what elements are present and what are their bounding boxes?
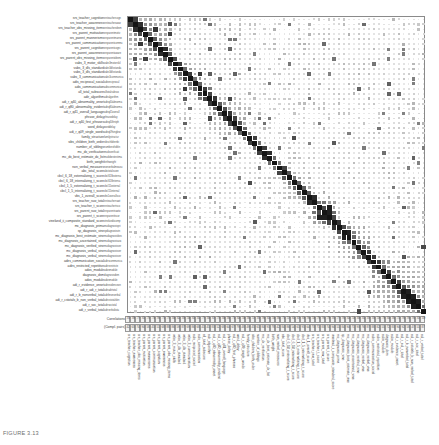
matrix-cell: [403, 241, 405, 243]
matrix-cell: [204, 236, 206, 238]
matrix-cell: [249, 187, 251, 189]
matrix-cell: [328, 132, 330, 134]
matrix-cell: [403, 221, 405, 223]
matrix-cell: [144, 37, 148, 41]
matrix-cell: [259, 172, 261, 174]
matrix-cell: [358, 291, 360, 293]
matrix-cell: [264, 53, 266, 55]
matrix-cell: [254, 23, 256, 25]
matrix-cell: [259, 137, 261, 139]
matrix-cell: [130, 311, 132, 313]
matrix-cell: [244, 251, 246, 253]
matrix-cell: [278, 146, 282, 150]
matrix-cell: [264, 241, 266, 243]
matrix-cell: [348, 221, 351, 224]
matrix-cell: [248, 107, 250, 109]
matrix-cell: [343, 177, 345, 179]
matrix-cell: [164, 261, 166, 263]
matrix-cell: [293, 256, 295, 258]
matrix-cell: [219, 306, 221, 308]
matrix-cell: [413, 122, 415, 124]
matrix-cell: [274, 152, 276, 154]
matrix-cell: [328, 310, 330, 312]
matrix-cell: [343, 286, 345, 288]
matrix-cell: [363, 197, 365, 199]
matrix-cell: [239, 211, 241, 213]
matrix-cell: [318, 38, 320, 40]
matrix-cell: [328, 291, 330, 293]
matrix-cell: [174, 286, 176, 288]
matrix-cell: [403, 172, 405, 174]
matrix-cell: [164, 172, 166, 174]
legend-cell-correlation: .65: [290, 316, 295, 323]
matrix-cell: [294, 128, 296, 130]
matrix-cell: [318, 271, 320, 273]
matrix-cell: [264, 132, 266, 134]
matrix-cell: [164, 142, 167, 145]
matrix-cell: [378, 192, 380, 194]
matrix-cell: [318, 182, 320, 184]
matrix-cell: [253, 97, 255, 99]
matrix-cell: [168, 221, 172, 224]
matrix-cell: [154, 18, 156, 20]
matrix-cell: [164, 207, 166, 209]
matrix-cell: [403, 78, 405, 80]
matrix-cell: [254, 187, 256, 189]
matrix-cell: [184, 63, 187, 66]
matrix-cell: [184, 236, 186, 238]
matrix-cell: [388, 226, 390, 228]
matrix-cell: [154, 147, 156, 149]
matrix-cell: [323, 152, 325, 154]
matrix-cell: [135, 78, 137, 80]
legend-cell-complete-pairs: 47: [410, 324, 415, 331]
matrix-cell: [239, 147, 241, 149]
matrix-cell: [130, 192, 132, 194]
legend-cell-correlation: .67: [210, 316, 215, 323]
matrix-cell: [264, 137, 266, 139]
matrix-cell: [413, 73, 415, 75]
matrix-cell: [263, 28, 265, 30]
matrix-cell: [377, 285, 380, 288]
matrix-cell: [214, 93, 216, 95]
matrix-cell: [219, 276, 221, 278]
matrix-cell: [279, 38, 281, 40]
matrix-cell: [214, 276, 216, 278]
matrix-cell: [423, 157, 425, 159]
matrix-cell: [328, 58, 330, 60]
matrix-cell: [284, 306, 286, 308]
matrix-cell: [229, 142, 231, 144]
matrix-cell: [149, 68, 151, 70]
matrix-cell: [328, 152, 330, 154]
matrix-cell: [139, 58, 142, 61]
matrix-cell: [204, 231, 206, 233]
matrix-cell: [254, 251, 256, 253]
matrix-cell: [154, 276, 156, 278]
matrix-cell: [249, 33, 251, 35]
matrix-cell: [244, 182, 246, 184]
matrix-cell: [392, 221, 395, 224]
matrix-cell: [238, 265, 242, 268]
matrix-cell: [422, 300, 425, 303]
matrix-cell: [318, 58, 320, 60]
matrix-cell: [353, 286, 355, 288]
matrix-cell: [218, 112, 222, 116]
matrix-cell: [249, 221, 251, 223]
matrix-cell: [269, 63, 271, 65]
matrix-cell: [328, 98, 330, 100]
matrix-cell: [263, 93, 265, 95]
matrix-cell: [164, 33, 167, 36]
matrix-cell: [313, 43, 315, 45]
matrix-cell: [289, 19, 291, 21]
matrix-cell: [168, 62, 172, 66]
matrix-cell: [348, 246, 351, 249]
matrix-cell: [402, 132, 404, 134]
matrix-cell: [228, 38, 231, 41]
matrix-cell: [383, 43, 385, 45]
matrix-cell: [372, 270, 375, 273]
matrix-cell: [398, 88, 400, 90]
matrix-cell: [164, 38, 167, 41]
matrix-cell: [393, 142, 395, 144]
matrix-cell: [219, 177, 221, 179]
matrix-cell: [194, 187, 196, 189]
matrix-cell: [303, 73, 305, 75]
